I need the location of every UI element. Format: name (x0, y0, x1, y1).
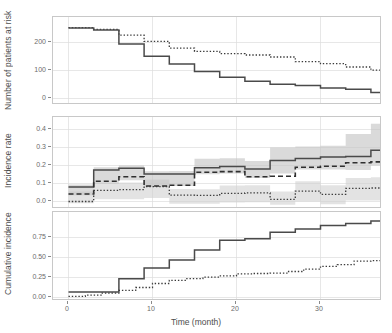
panel3-ytick-075: 0.75 (20, 233, 46, 240)
panel3-plot-area (52, 211, 381, 300)
panel3-xtick-30: 30 (309, 305, 329, 312)
panel2-ytick-00: 0.0 (24, 197, 46, 204)
panel-cumulative-incidence: Cumulative incidence 0.75 0.50 0.25 0.00 (0, 207, 392, 333)
panel2-ytick-mark-03 (48, 146, 51, 147)
panel3-ytick-025: 0.25 (20, 273, 46, 280)
panel1-ytick-mark-100 (48, 69, 51, 70)
panel1-y-axis-label: Number of patients at risk (3, 14, 15, 110)
panel3-ytick-mark-050 (48, 256, 51, 257)
panel3-xtick-mark-30 (319, 301, 320, 304)
panel1-series-solid (69, 28, 382, 93)
panel3-ytick-mark-000 (48, 296, 51, 297)
panel1-ytick-100: 100 (24, 66, 46, 73)
panel2-ytick-mark-02 (48, 164, 51, 165)
figure-root: Number of patients at risk 200 100 0 (0, 0, 392, 333)
panel3-ytick-000: 0.00 (20, 293, 46, 300)
panel3-xtick-0: 0 (57, 305, 77, 312)
panel3-xtick-mark-20 (235, 301, 236, 304)
panel3-ytick-mark-025 (48, 276, 51, 277)
x-axis-label: Time (month) (0, 317, 392, 327)
panel3-ytick-mark-075 (48, 236, 51, 237)
panel1-ytick-mark-200 (48, 41, 51, 42)
panel1-ytick-mark-0 (48, 97, 51, 98)
panel3-xtick-10: 10 (141, 305, 161, 312)
panel3-xtick-mark-0 (67, 301, 68, 304)
panel1-ytick-200: 200 (24, 38, 46, 45)
panel2-ytick-03: 0.3 (24, 143, 46, 150)
panel3-ytick-050: 0.50 (20, 253, 46, 260)
panel2-y-axis-label: Incidence rate (3, 116, 15, 206)
panel1-svg (53, 17, 381, 104)
panel-patients-at-risk: Number of patients at risk 200 100 0 (0, 0, 392, 112)
panel1-ytick-0: 0 (24, 94, 46, 101)
panel2-ytick-mark-04 (48, 128, 51, 129)
panel2-plot-area (52, 116, 381, 208)
panel-incidence-rate: Incidence rate 0.4 0.3 0.2 0.1 0.0 (0, 110, 392, 210)
panel3-series-solid (69, 221, 382, 292)
panel3-xtick-mark-10 (151, 301, 152, 304)
panel3-xtick-20: 20 (225, 305, 245, 312)
panel3-series-dotted (69, 261, 382, 297)
panel2-ytick-04: 0.4 (24, 125, 46, 132)
panel3-svg (53, 212, 381, 300)
panel1-plot-area (52, 16, 381, 104)
panel2-svg (53, 117, 381, 208)
panel3-y-axis-label: Cumulative incidence (3, 211, 15, 297)
panel2-ytick-mark-00 (48, 200, 51, 201)
panel2-ytick-mark-01 (48, 182, 51, 183)
panel1-series-dotted (69, 28, 382, 71)
panel2-ytick-01: 0.1 (24, 179, 46, 186)
panel2-ytick-02: 0.2 (24, 161, 46, 168)
